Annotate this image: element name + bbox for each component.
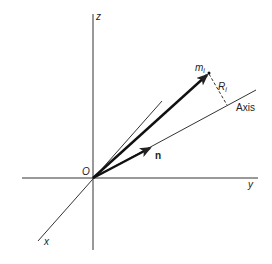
mass-label: mi: [195, 62, 205, 74]
z-axis-label: z: [95, 11, 101, 22]
origin-label: O: [82, 166, 90, 177]
y-axis-label: y: [247, 179, 254, 190]
mass-label-main: m: [195, 62, 203, 73]
axis-label: Axis: [236, 102, 255, 113]
unit-vector-label: n: [155, 150, 161, 161]
vector-diagram: z y x O mi Ri Axis n: [0, 0, 272, 264]
mass-label-subscript: i: [203, 67, 205, 74]
x-axis-label: x: [43, 236, 50, 247]
mass-vector-arrow: [93, 75, 207, 178]
distance-label-main: R: [218, 81, 225, 92]
distance-label-subscript: i: [225, 86, 227, 93]
distance-label: Ri: [218, 81, 227, 93]
